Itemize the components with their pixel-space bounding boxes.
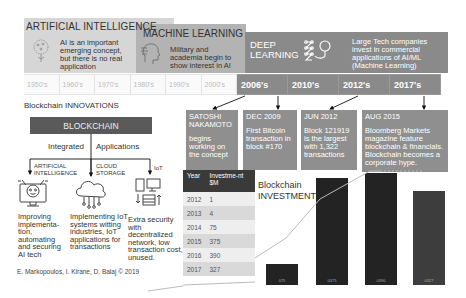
connector-arrows [0,0,466,298]
copyright: E. Markopoulos, I. Kirane, D. Balaj © 20… [17,268,139,275]
